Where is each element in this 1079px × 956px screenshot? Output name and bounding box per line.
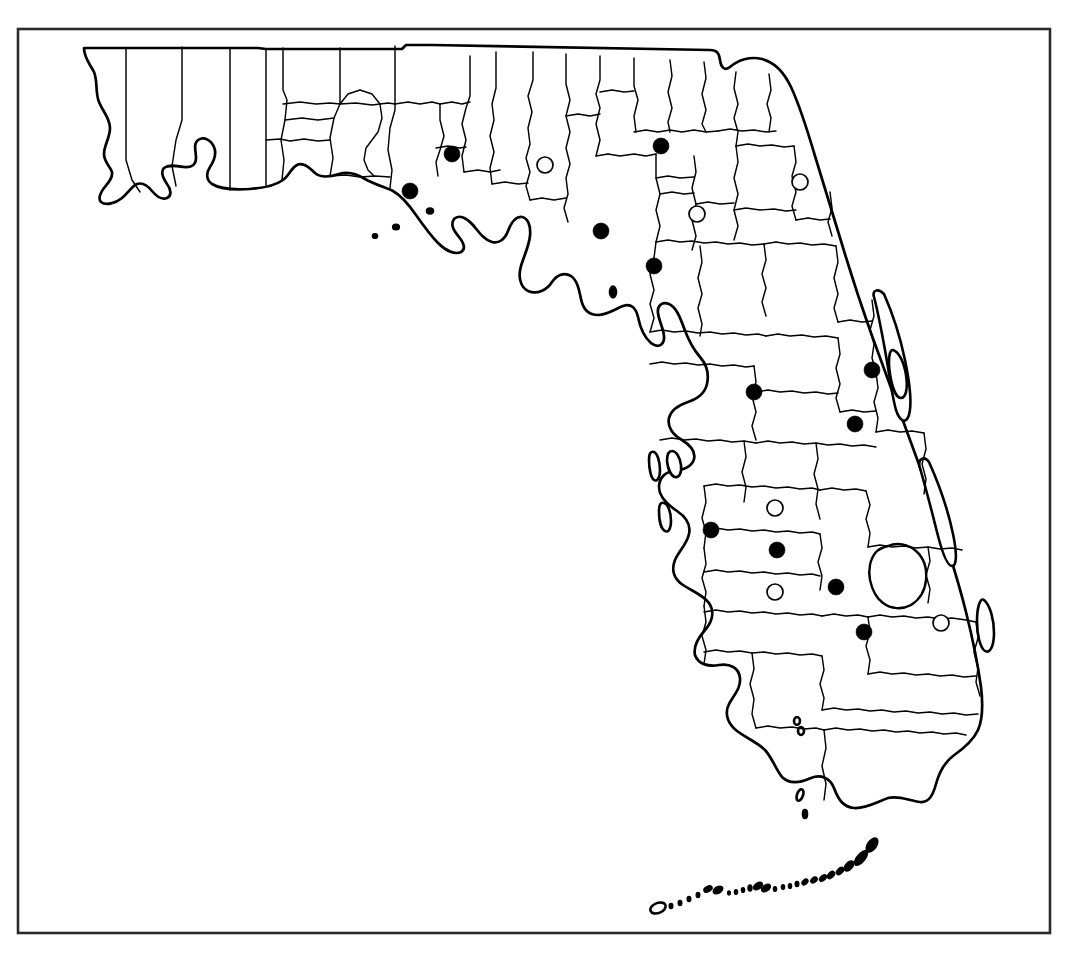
filled-circle-symbol xyxy=(828,579,844,595)
filled-circle-symbol xyxy=(856,624,872,640)
open-circle-symbol xyxy=(792,174,808,190)
key-island xyxy=(802,809,807,818)
open-circle-symbol xyxy=(933,615,949,631)
gulf-island-pine xyxy=(649,452,660,481)
lake-okeechobee xyxy=(869,544,926,608)
key-island xyxy=(852,849,870,868)
key-island xyxy=(801,878,809,886)
map-figure-page xyxy=(0,0,1079,956)
filled-circle-symbol xyxy=(847,416,863,432)
panhandle-islet xyxy=(393,224,400,230)
gulf-island-captiva xyxy=(659,503,671,532)
key-island xyxy=(788,884,791,889)
key-island xyxy=(734,890,737,894)
filled-circle-symbol xyxy=(653,138,669,154)
key-island xyxy=(669,903,673,908)
key-island xyxy=(818,874,827,883)
key-island xyxy=(741,888,744,893)
key-island-marquesas xyxy=(773,887,776,891)
key-island xyxy=(835,866,845,876)
filled-circle-symbol xyxy=(402,183,418,199)
panhandle-islet xyxy=(426,208,433,214)
filled-circle-symbol xyxy=(746,384,762,400)
filled-circle-symbol xyxy=(646,258,662,274)
key-island xyxy=(795,881,799,886)
filled-circle-symbol xyxy=(864,362,880,378)
florida-distribution-map xyxy=(0,0,1079,956)
key-island-biscayne xyxy=(795,788,805,801)
open-circle-symbol xyxy=(767,584,783,600)
key-island-dry-tortugas xyxy=(712,885,724,896)
atlantic-barrier-island-south xyxy=(977,600,994,652)
key-island xyxy=(810,876,819,884)
gulf-islet xyxy=(609,286,616,298)
key-island-westernmost xyxy=(649,900,668,915)
key-island xyxy=(748,885,752,891)
key-island xyxy=(696,892,700,897)
key-island xyxy=(687,896,691,901)
key-island xyxy=(826,870,836,880)
key-island xyxy=(728,891,731,895)
key-island xyxy=(678,900,682,905)
key-island xyxy=(703,885,713,894)
open-circle-symbol xyxy=(689,206,705,222)
filled-circle-symbol xyxy=(769,542,785,558)
key-island xyxy=(842,859,855,873)
gulf-island-sanibel xyxy=(667,451,681,477)
filled-circle-symbol xyxy=(444,146,460,162)
gulf-islet xyxy=(794,717,800,725)
florida-keys-group xyxy=(649,788,881,915)
filled-circle-symbol xyxy=(703,522,719,538)
key-island xyxy=(781,885,784,889)
open-circle-symbol xyxy=(537,157,553,173)
open-circle-symbol xyxy=(767,500,783,516)
map-geometry xyxy=(84,45,994,916)
panhandle-islet xyxy=(372,234,377,239)
filled-circle-symbol xyxy=(593,223,609,239)
